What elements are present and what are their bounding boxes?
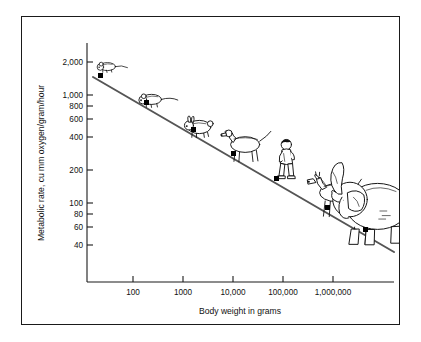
y-tick-label-800: 800 xyxy=(69,102,83,111)
x-tick-label-100000: 100,000 xyxy=(268,288,298,297)
x-tick-label-10000: 10,000 xyxy=(220,288,245,297)
y-tick-label-200: 200 xyxy=(69,166,83,175)
x-axis xyxy=(87,276,394,282)
data-point-horse xyxy=(325,205,330,210)
y-tick-label-1000: 1,000 xyxy=(63,91,84,100)
figure-frame: 2,000 1,000 800 600 400 200 100 80 60 40… xyxy=(21,16,400,325)
rabbit-illustration xyxy=(184,116,213,137)
data-point-mouse xyxy=(98,73,103,78)
dog-illustration xyxy=(221,130,271,162)
data-points xyxy=(98,73,368,232)
y-tick-label-60: 60 xyxy=(74,223,84,232)
human-illustration xyxy=(277,139,295,178)
y-tick-label-80: 80 xyxy=(74,210,84,219)
metabolic-rate-chart: 2,000 1,000 800 600 400 200 100 80 60 40… xyxy=(22,17,399,324)
elephant-illustration xyxy=(331,163,399,245)
data-point-human xyxy=(274,176,279,181)
mouse-illustration xyxy=(97,62,127,72)
y-axis xyxy=(87,43,93,282)
data-point-rabbit xyxy=(191,127,196,132)
y-tick-label-600: 600 xyxy=(69,115,83,124)
data-point-dog xyxy=(231,151,236,156)
x-tick-labels: 100 1000 10,000 100,000 1,000,000 xyxy=(126,288,351,297)
x-axis-title: Body weight in grams xyxy=(199,306,281,316)
regression-trend-line xyxy=(93,77,394,252)
y-tick-label-100: 100 xyxy=(69,199,83,208)
y-tick-label-40: 40 xyxy=(74,241,84,250)
y-tick-label-400: 400 xyxy=(69,133,83,142)
data-point-rat xyxy=(144,100,149,105)
y-tick-labels: 2,000 1,000 800 600 400 200 100 80 60 40 xyxy=(63,58,84,250)
x-tick-label-1000: 1000 xyxy=(174,288,193,297)
x-tick-label-1000000: 1,000,000 xyxy=(315,288,352,297)
y-axis-title: Metabolic rate, cu mm oxygen/gram/hour xyxy=(36,85,46,241)
y-tick-label-2000: 2,000 xyxy=(63,58,84,67)
data-point-elephant xyxy=(363,227,368,232)
x-tick-label-100: 100 xyxy=(126,288,140,297)
